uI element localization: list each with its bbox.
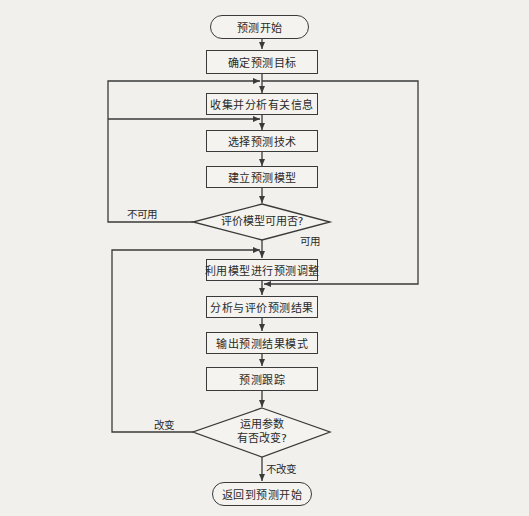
- process-label: 预测跟踪: [239, 371, 285, 387]
- edge-label-unchanged: 不改变: [266, 461, 296, 476]
- start-label: 预测开始: [237, 19, 283, 35]
- flowchart-canvas: 预测开始 确定预测目标 收集并分析有关信息 选择预测技术 建立预测模型 评价模型…: [0, 0, 529, 516]
- end-terminal: 返回到预测开始: [212, 482, 312, 506]
- end-label: 返回到预测开始: [222, 486, 303, 502]
- process-apply-model: 利用模型进行预测调整: [206, 259, 318, 281]
- decision-label-line2: 有否改变?: [213, 432, 311, 446]
- process-output-results: 输出预测结果模式: [206, 332, 318, 354]
- decision-params-changed: 运用参数 有否改变?: [213, 418, 311, 446]
- process-label: 收集并分析有关信息: [210, 96, 314, 112]
- process-tracking: 预测跟踪: [206, 367, 318, 391]
- process-label: 输出预测结果模式: [216, 335, 308, 351]
- process-build-model: 建立预测模型: [206, 166, 318, 188]
- edge-label-usable: 可用: [300, 233, 320, 248]
- process-analyze-results: 分析与评价预测结果: [206, 296, 318, 318]
- decision-label: 评价模型可用否?: [221, 215, 304, 228]
- edge-label-not-usable: 不可用: [127, 206, 157, 221]
- process-define-target: 确定预测目标: [206, 50, 318, 74]
- process-label: 选择预测技术: [228, 133, 297, 149]
- process-label: 分析与评价预测结果: [210, 299, 314, 315]
- decision-model-usable: 评价模型可用否?: [203, 215, 321, 229]
- process-select-technique: 选择预测技术: [206, 130, 318, 152]
- process-label: 确定预测目标: [228, 54, 297, 70]
- process-label: 利用模型进行预测调整: [205, 262, 320, 278]
- process-label: 建立预测模型: [228, 169, 297, 185]
- process-collect-info: 收集并分析有关信息: [206, 93, 318, 115]
- edge-label-changed: 改变: [154, 417, 174, 432]
- start-terminal: 预测开始: [210, 15, 309, 39]
- decision-label-line1: 运用参数: [213, 418, 311, 432]
